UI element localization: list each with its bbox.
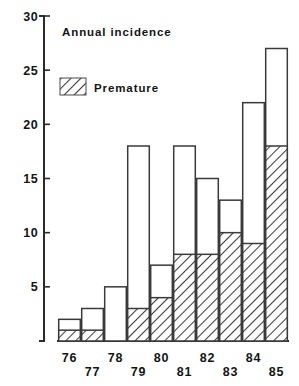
x-tick-label-78: 78 xyxy=(108,351,124,365)
y-tick-label-25: 25 xyxy=(23,64,38,78)
y-tick-label-5: 5 xyxy=(31,280,38,294)
x-tick-label-82: 82 xyxy=(200,351,216,365)
chart-title: Annual incidence xyxy=(62,26,172,38)
chart-figure: 30252015105 76777879808182838485 Annual … xyxy=(0,0,299,386)
y-tick-label-20: 20 xyxy=(23,118,38,132)
bar-premature-79 xyxy=(128,309,150,342)
y-tick-label-15: 15 xyxy=(23,172,38,186)
x-tick-label-84: 84 xyxy=(246,351,262,365)
bar-premature-77 xyxy=(82,330,104,341)
x-tick-label-81: 81 xyxy=(177,365,193,379)
bar-premature-81 xyxy=(174,254,196,341)
x-tick-label-80: 80 xyxy=(154,351,170,365)
x-tick-label-77: 77 xyxy=(85,365,101,379)
bar-premature-76 xyxy=(59,330,81,341)
x-tick-label-85: 85 xyxy=(269,365,285,379)
bar-premature-82 xyxy=(197,254,219,341)
bar-total-78 xyxy=(105,287,127,341)
x-tick-label-83: 83 xyxy=(223,365,239,379)
y-tick-label-30: 30 xyxy=(23,10,38,24)
legend-hatch-swatch xyxy=(60,78,86,95)
x-tick-label-76: 76 xyxy=(62,351,78,365)
x-tick-label-79: 79 xyxy=(131,365,147,379)
y-tick-label-10: 10 xyxy=(23,226,38,240)
bar-premature-85 xyxy=(266,146,288,341)
legend-label-premature: Premature xyxy=(94,82,159,94)
bar-premature-83 xyxy=(220,233,242,341)
bar-premature-84 xyxy=(243,244,265,342)
bar-chart-svg: 30252015105 76777879808182838485 Annual … xyxy=(0,0,299,386)
bar-premature-80 xyxy=(151,298,173,341)
